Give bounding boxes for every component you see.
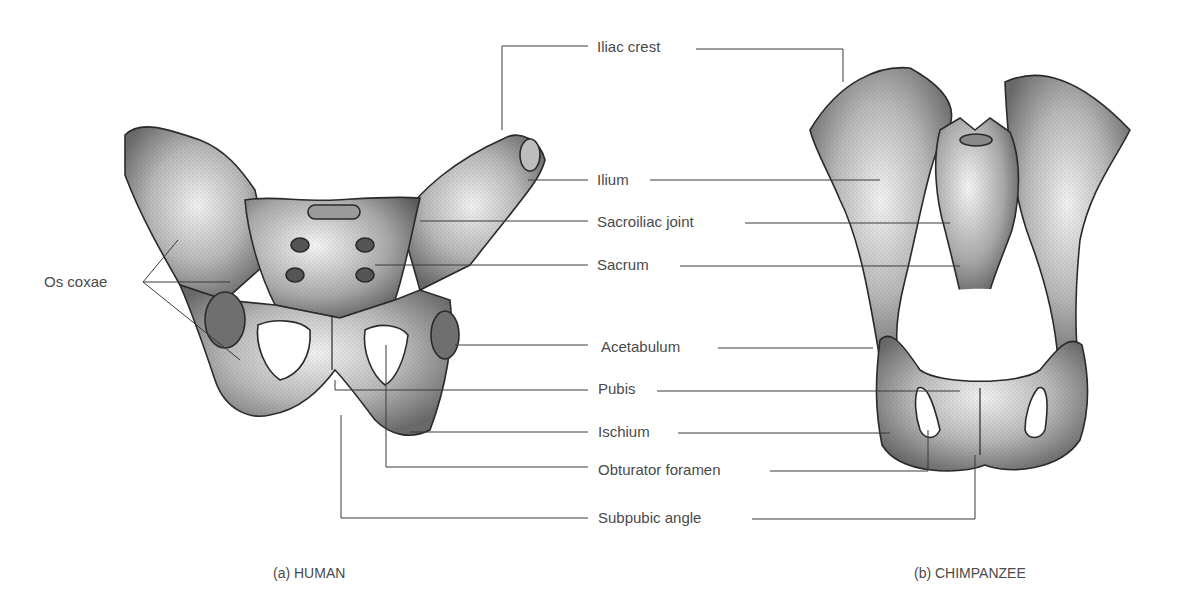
chimpanzee-pelvis-drawing (810, 68, 1130, 471)
label-sacroiliac-joint: Sacroiliac joint (597, 214, 694, 229)
illustration (0, 0, 1195, 592)
label-ilium: Ilium (597, 172, 629, 187)
label-acetabulum: Acetabulum (601, 339, 680, 354)
label-os-coxae: Os coxae (44, 274, 107, 289)
label-iliac-crest: Iliac crest (597, 39, 660, 54)
label-obturator-foramen: Obturator foramen (598, 462, 721, 477)
label-pubis: Pubis (598, 381, 636, 396)
label-subpubic-angle: Subpubic angle (598, 510, 701, 525)
caption-human: (a) HUMAN (273, 565, 345, 581)
label-ischium: Ischium (598, 424, 650, 439)
pelvis-comparison-figure: Iliac crest Ilium Sacroiliac joint Sacru… (0, 0, 1195, 592)
caption-chimpanzee: (b) CHIMPANZEE (914, 565, 1026, 581)
label-sacrum: Sacrum (597, 257, 649, 272)
